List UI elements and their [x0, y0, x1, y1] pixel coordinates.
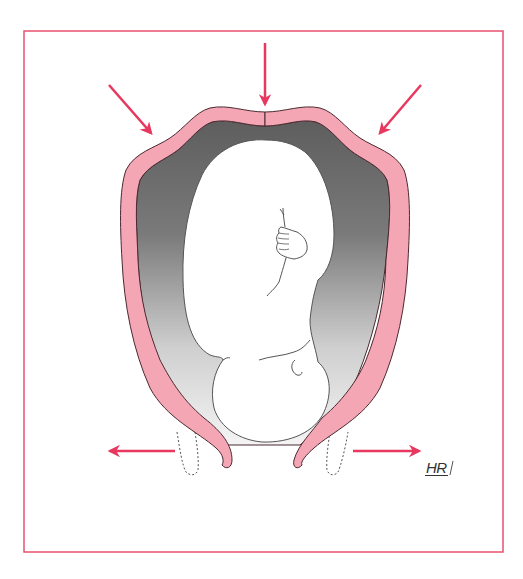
artist-signature: HR — [425, 460, 448, 476]
cervix-ghost-left — [177, 432, 198, 475]
fundal-arrow-left — [109, 85, 151, 133]
fundal-arrow-right — [380, 85, 421, 133]
cervix-ghost-right — [327, 432, 348, 475]
uterine-contraction-diagram — [0, 0, 523, 579]
